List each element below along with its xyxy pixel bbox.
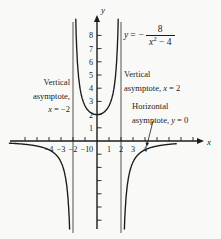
y-axis-label: y [100, 5, 105, 15]
left-asymptote-line2: asymptote, [14, 90, 70, 104]
horizontal-asymptote-label: Horizontal asymptote, y = 0 [132, 100, 188, 127]
equation-minus: − [139, 29, 144, 43]
x-tick-label--2: −2 [69, 145, 78, 154]
x-axis-arrowhead [197, 138, 204, 144]
curve-branch-right [124, 144, 176, 229]
horizontal-asymptote-line2: asymptote, y = 0 [132, 114, 188, 128]
equation-label: y = − 8 x2 − 4 [124, 24, 175, 48]
x-tick-label--3: −3 [57, 145, 66, 154]
curve-branch-left [9, 143, 69, 229]
equation-denominator: x2 − 4 [146, 35, 175, 48]
y-tick-label-7: 7 [89, 45, 93, 54]
right-asymptote-line1: Vertical [124, 68, 180, 82]
equation-numerator: 8 [156, 24, 165, 35]
y-tick-label-5: 5 [89, 71, 93, 80]
y-axis-arrowhead [94, 15, 100, 22]
left-asymptote-line1: Vertical [14, 76, 70, 90]
y-tick-label-1: 1 [89, 124, 93, 133]
y-tick-label-6: 6 [89, 58, 93, 67]
y-tick-label-4: 4 [89, 84, 93, 93]
y-tick-label-3: 3 [89, 97, 93, 106]
right-asymptote-line2: asymptote, x = 2 [124, 82, 180, 96]
x-tick-label-1: 1 [107, 145, 111, 154]
equation-equals: = [130, 29, 135, 43]
equation-fraction: 8 x2 − 4 [146, 24, 175, 48]
left-vertical-asymptote-label: Vertical asymptote, x = −2 [14, 76, 70, 117]
x-axis-label: x [206, 137, 211, 147]
y-tick-label-8: 8 [89, 31, 93, 40]
x-tick-label-2: 2 [119, 145, 123, 154]
x-tick-label-3: 3 [131, 145, 135, 154]
x-tick-label-0: 0 [89, 145, 93, 154]
equation-lhs: y [124, 29, 128, 43]
right-vertical-asymptote-label: Vertical asymptote, x = 2 [124, 68, 180, 95]
left-asymptote-line3: x = −2 [14, 103, 70, 117]
horizontal-asymptote-line1: Horizontal [132, 100, 188, 114]
function-graph-figure: xy−4−3−2−10123412345678 y = − 8 x2 − 4 V… [0, 0, 221, 239]
